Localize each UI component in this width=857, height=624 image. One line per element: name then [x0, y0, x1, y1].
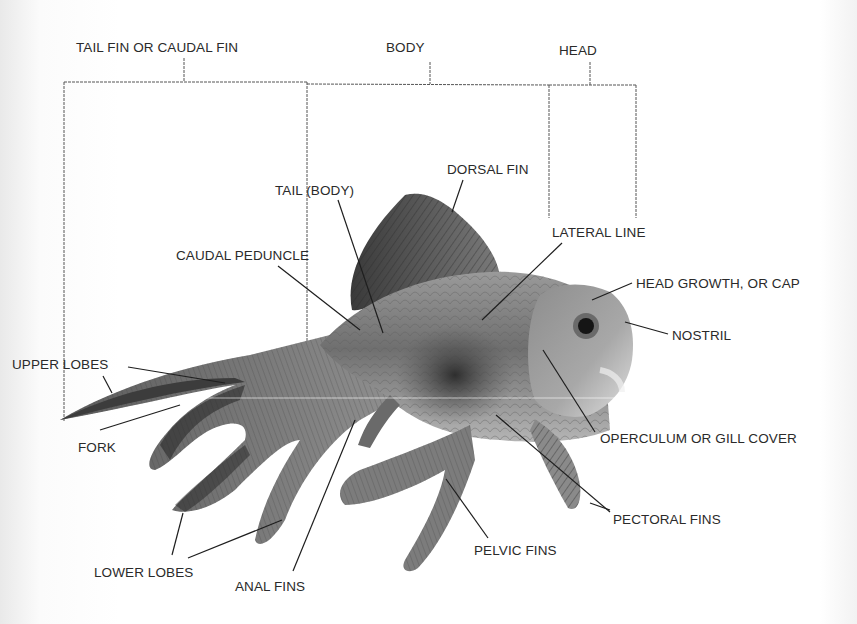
- label-pectoral-fins: PECTORAL FINS: [613, 513, 721, 527]
- label-anal-fins: ANAL FINS: [235, 580, 305, 594]
- goldfish-illustration: [0, 0, 857, 624]
- label-fork: FORK: [78, 441, 116, 455]
- region-label-body: BODY: [386, 41, 425, 55]
- pelvic-fins-shape: [340, 425, 475, 571]
- label-lateral-line: LATERAL LINE: [552, 226, 646, 240]
- label-upper-lobes: UPPER LOBES: [12, 358, 108, 372]
- region-label-head: HEAD: [559, 44, 597, 58]
- leader-dorsal-fin: [452, 180, 463, 212]
- label-caudal-peduncle: CAUDAL PEDUNCLE: [176, 249, 309, 263]
- label-dorsal-fin: DORSAL FIN: [447, 163, 529, 177]
- label-operculum: OPERCULUM OR GILL COVER: [600, 432, 797, 446]
- diagram-canvas: TAIL FIN OR CAUDAL FIN BODY HEAD DORSAL …: [0, 0, 857, 624]
- region-label-tail-fin: TAIL FIN OR CAUDAL FIN: [76, 41, 238, 55]
- label-lower-lobes: LOWER LOBES: [94, 566, 193, 580]
- label-pelvic-fins: PELVIC FINS: [474, 544, 557, 558]
- label-tail-body: TAIL (BODY): [275, 184, 354, 198]
- leader-lower-lobes-1: [172, 513, 183, 555]
- label-nostril: NOSTRIL: [672, 329, 731, 343]
- leader-caudal-peduncle: [278, 266, 360, 330]
- label-head-growth: HEAD GROWTH, OR CAP: [636, 277, 800, 291]
- leader-upper-lobes-2: [103, 376, 112, 393]
